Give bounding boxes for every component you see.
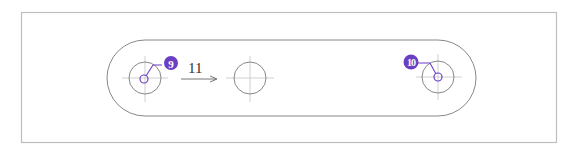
callout-9: 9 [164, 56, 178, 70]
arrow-label: 11 [188, 60, 202, 76]
direction-arrow: 11 [181, 60, 217, 82]
callout-9-label: 9 [168, 58, 174, 70]
callout-10-label: 10 [407, 57, 416, 68]
left-hole [122, 56, 168, 102]
right-hole [416, 54, 462, 100]
inner-hole-marker [140, 75, 148, 83]
leader-line-10 [418, 63, 436, 74]
callout-10: 10 [404, 55, 419, 70]
technical-drawing: 9 11 10 [0, 0, 574, 151]
middle-hole [226, 56, 274, 102]
